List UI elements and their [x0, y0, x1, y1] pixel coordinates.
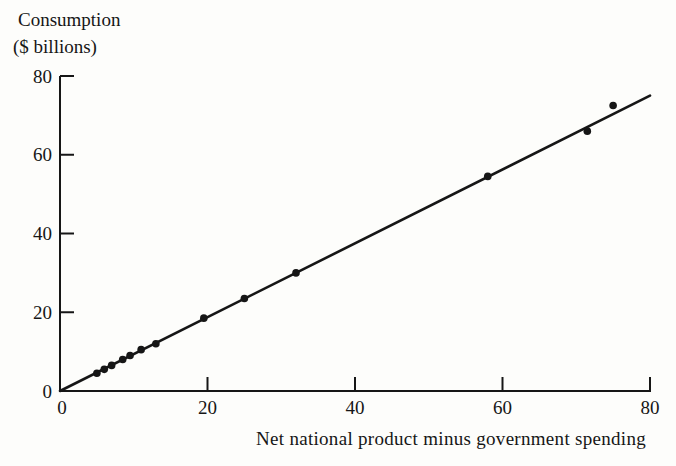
y-tick-label: 40: [33, 223, 52, 244]
trend-line: [60, 96, 650, 391]
plot-area: 020406080020406080: [0, 0, 676, 466]
y-tick-label: 0: [43, 381, 53, 402]
data-point: [126, 352, 134, 360]
data-point: [137, 346, 145, 354]
data-point: [200, 314, 208, 322]
data-point: [108, 362, 116, 370]
data-point: [584, 127, 592, 135]
data-point: [609, 102, 617, 110]
data-point: [241, 295, 249, 303]
y-tick-label: 20: [33, 302, 52, 323]
x-tick-label: 40: [346, 397, 365, 418]
data-point: [152, 340, 160, 348]
y-tick-label: 60: [33, 144, 52, 165]
x-tick-label: 80: [641, 397, 660, 418]
data-point: [484, 173, 492, 181]
x-tick-label: 60: [493, 397, 512, 418]
x-tick-label: 20: [198, 397, 217, 418]
data-point: [100, 366, 108, 374]
axes-lines: [60, 76, 651, 391]
data-point: [93, 369, 101, 377]
x-tick-label: 0: [57, 397, 67, 418]
x-axis-title: Net national product minus government sp…: [256, 428, 646, 450]
data-point: [119, 356, 127, 364]
y-tick-label: 80: [33, 66, 52, 87]
consumption-scatter-figure: Consumption ($ billions) 020406080020406…: [0, 0, 676, 466]
data-point: [292, 269, 300, 277]
